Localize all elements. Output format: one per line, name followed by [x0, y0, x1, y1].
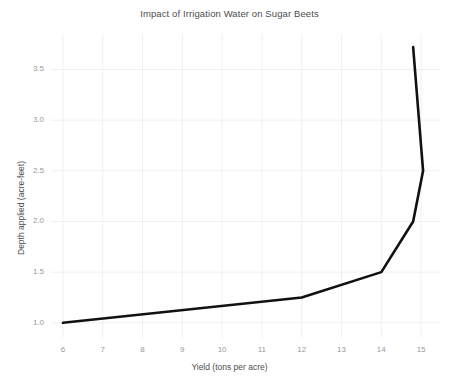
x-tick-label: 11: [250, 345, 274, 354]
series-line: [63, 47, 423, 323]
y-tick-label: 1.0: [20, 318, 44, 327]
x-tick-label: 15: [409, 345, 433, 354]
x-tick-label: 12: [290, 345, 314, 354]
y-tick-label: 3.0: [20, 115, 44, 124]
x-tick-label: 10: [210, 345, 234, 354]
y-tick-label: 1.5: [20, 267, 44, 276]
x-tick-label: 8: [131, 345, 155, 354]
data-series: [63, 47, 423, 323]
y-axis-label: Depth applied (acre-feet): [16, 161, 26, 255]
plot-canvas: [0, 0, 459, 384]
y-tick-label: 3.5: [20, 64, 44, 73]
x-tick-label: 9: [170, 345, 194, 354]
x-tick-label: 7: [91, 345, 115, 354]
grid-lines: [51, 34, 441, 338]
x-axis-label: Yield (tons per acre): [0, 362, 459, 372]
x-tick-label: 6: [51, 345, 75, 354]
chart-figure: Impact of Irrigation Water on Sugar Beet…: [0, 0, 459, 384]
x-tick-label: 14: [369, 345, 393, 354]
x-tick-label: 13: [330, 345, 354, 354]
